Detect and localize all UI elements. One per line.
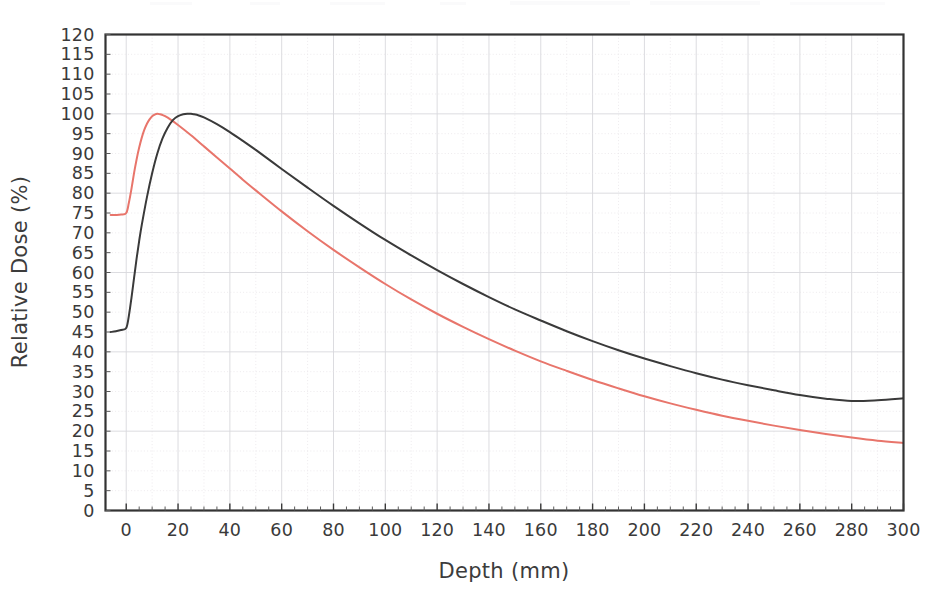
- y-tick-label: 40: [72, 342, 95, 362]
- x-tick-label: 200: [627, 520, 661, 540]
- x-tick-label: 20: [167, 520, 190, 540]
- y-tick-label: 15: [72, 441, 95, 461]
- y-tick-label: 90: [72, 144, 95, 164]
- y-axis-title: Relative Dose (%): [8, 176, 32, 368]
- y-tick-label: 10: [72, 461, 95, 481]
- x-axis-title: Depth (mm): [439, 559, 570, 583]
- x-tick-label: 280: [835, 520, 869, 540]
- x-tick-label: 40: [219, 520, 242, 540]
- y-tick-label: 100: [60, 104, 94, 124]
- y-tick-label: 75: [72, 203, 95, 223]
- y-tick-label: 25: [72, 401, 95, 421]
- y-tick-label: 120: [60, 25, 94, 45]
- y-tick-label: 110: [60, 64, 94, 84]
- x-tick-label: 220: [679, 520, 713, 540]
- x-tick-label: 100: [368, 520, 402, 540]
- y-tick-label: 5: [83, 481, 94, 501]
- y-tick-label: 115: [60, 44, 94, 64]
- x-tick-label: 180: [576, 520, 610, 540]
- y-tick-label: 50: [72, 302, 95, 322]
- chart-container: 0204060801001201401601802002202402602803…: [0, 0, 934, 601]
- y-tick-label: 65: [72, 243, 95, 263]
- y-tick-label: 70: [72, 223, 95, 243]
- y-tick-label: 85: [72, 163, 95, 183]
- y-tick-label: 45: [72, 322, 95, 342]
- y-tick-label: 0: [83, 501, 94, 521]
- y-tick-label: 20: [72, 421, 95, 441]
- x-tick-label: 160: [524, 520, 558, 540]
- y-tick-label: 60: [72, 263, 95, 283]
- y-tick-label: 80: [72, 183, 95, 203]
- y-tick-label: 30: [72, 382, 95, 402]
- y-tick-label: 35: [72, 362, 95, 382]
- plot-area: [106, 35, 904, 511]
- x-tick-label: 60: [270, 520, 293, 540]
- x-tick-label: 80: [322, 520, 345, 540]
- x-tick-label: 140: [472, 520, 506, 540]
- x-tick-label: 240: [731, 520, 765, 540]
- x-tick-label: 300: [886, 520, 920, 540]
- y-tick-label: 105: [60, 84, 94, 104]
- x-tick-label: 260: [783, 520, 817, 540]
- x-tick-label: 120: [420, 520, 454, 540]
- y-tick-label: 55: [72, 282, 95, 302]
- depth-dose-chart: 0204060801001201401601802002202402602803…: [0, 0, 934, 601]
- x-tick-label: 0: [121, 520, 132, 540]
- y-tick-label: 95: [72, 124, 95, 144]
- scan-artifact-band: [150, 1, 885, 5]
